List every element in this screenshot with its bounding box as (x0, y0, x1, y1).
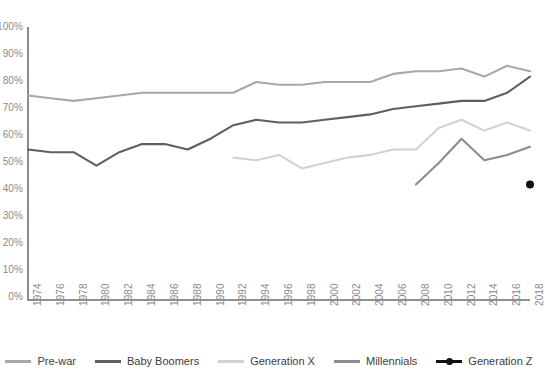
y-tick-label: 100% (0, 21, 23, 32)
y-tick-label: 0% (8, 291, 23, 302)
y-tick-label: 40% (3, 183, 23, 194)
x-tick-label: 2018 (534, 283, 545, 306)
legend-swatch (5, 360, 31, 363)
legend-label: Pre-war (37, 355, 76, 367)
x-tick-label: 1982 (123, 283, 134, 306)
chart-legend: Pre-warBaby BoomersGeneration XMillennia… (0, 348, 538, 374)
x-tick-label: 2008 (420, 283, 431, 306)
axis-spines (28, 27, 530, 300)
x-tick-label: 2016 (511, 283, 522, 306)
legend-item-baby-boomers[interactable]: Baby Boomers (95, 355, 199, 367)
legend-swatch (95, 360, 121, 363)
series-generation-x (233, 120, 530, 169)
x-tick-label: 1994 (260, 283, 271, 306)
x-tick-label: 2004 (374, 283, 385, 306)
y-tick-label: 60% (3, 129, 23, 140)
x-tick-label: 2006 (397, 283, 408, 306)
legend-swatch (218, 360, 244, 363)
legend-item-generation-z[interactable]: Generation Z (436, 355, 532, 367)
series-millennials (416, 139, 530, 185)
y-tick-label: 70% (3, 102, 23, 113)
x-tick-label: 1974 (32, 283, 43, 306)
legend-marker-dot (446, 358, 453, 365)
legend-item-millennials[interactable]: Millennials (334, 355, 417, 367)
legend-item-pre-war[interactable]: Pre-war (5, 355, 76, 367)
legend-label: Millennials (366, 355, 417, 367)
x-tick-label: 2012 (466, 283, 477, 306)
x-tick-label: 1988 (192, 283, 203, 306)
x-tick-label: 1996 (283, 283, 294, 306)
x-tick-label: 1980 (100, 283, 111, 306)
legend-label: Baby Boomers (127, 355, 199, 367)
data-point-marker (526, 181, 534, 189)
x-tick-label: 1978 (78, 283, 89, 306)
y-tick-label: 10% (3, 264, 23, 275)
y-tick-label: 80% (3, 75, 23, 86)
x-tick-label: 2000 (329, 283, 340, 306)
legend-label: Generation Z (468, 355, 532, 367)
legend-label: Generation X (250, 355, 315, 367)
x-tick-label: 1990 (215, 283, 226, 306)
x-tick-label: 2014 (488, 283, 499, 306)
legend-item-generation-x[interactable]: Generation X (218, 355, 315, 367)
y-tick-label: 20% (3, 237, 23, 248)
legend-swatch (334, 360, 360, 363)
x-tick-label: 2002 (351, 283, 362, 306)
series-pre-war (28, 66, 530, 101)
y-tick-label: 30% (3, 210, 23, 221)
series-generation-z (526, 181, 534, 189)
y-tick-label: 90% (3, 48, 23, 59)
x-tick-label: 1998 (306, 283, 317, 306)
x-tick-label: 1986 (169, 283, 180, 306)
x-tick-label: 2010 (443, 283, 454, 306)
x-tick-label: 1984 (146, 283, 157, 306)
x-tick-label: 1992 (237, 283, 248, 306)
x-tick-label: 1976 (55, 283, 66, 306)
y-tick-label: 50% (3, 156, 23, 167)
legend-swatch (436, 360, 462, 363)
